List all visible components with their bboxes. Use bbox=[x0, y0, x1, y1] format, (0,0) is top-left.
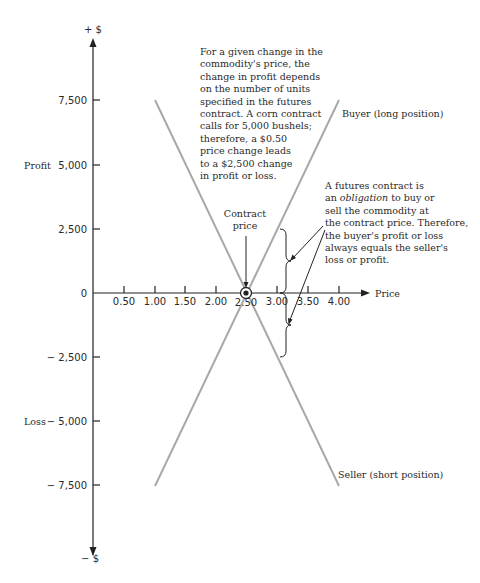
x-tick-1-00: 1.00 bbox=[144, 296, 166, 307]
x-tick-0-50: 0.50 bbox=[113, 296, 135, 307]
y-tick-5000: 5,000 bbox=[58, 160, 87, 171]
y-axis-bottom-label: − $ bbox=[81, 553, 99, 564]
contract-price-label-line2: price bbox=[233, 220, 258, 231]
x-tick-1-50: 1.50 bbox=[174, 296, 196, 307]
note-obligation-rest: sell the commodity at the contract price… bbox=[325, 205, 468, 266]
y-axis-up-arrow-icon bbox=[90, 38, 97, 47]
y-tick-neg-2500: − 2,500 bbox=[47, 352, 87, 363]
note-obligation-line1: A futures contract is bbox=[325, 180, 424, 191]
y-tick-labels: 7,500 5,000 2,500 0 − 2,500 − 5,000 − 7,… bbox=[47, 95, 87, 491]
x-tick-3-50: 3.50 bbox=[297, 296, 319, 307]
x-tick-2-50: 2.50 bbox=[235, 297, 257, 308]
profit-label: Profit bbox=[24, 160, 51, 171]
x-axis-arrow-icon bbox=[361, 290, 370, 297]
y-tick-2500: 2,500 bbox=[58, 224, 87, 235]
y-tick-neg-5000: − 5,000 bbox=[47, 416, 87, 427]
x-tick-4-00: 4.00 bbox=[328, 296, 350, 307]
contract-price-dot bbox=[243, 290, 248, 295]
seller-label: Seller (short position) bbox=[338, 469, 443, 480]
upper-brace bbox=[280, 229, 291, 293]
note-obligation-line2-pre: an bbox=[325, 192, 340, 203]
x-tick-labels: 0.50 1.00 1.50 2.00 2.50 3.00 3.50 4.00 bbox=[113, 296, 350, 308]
y-axis-top-label: + $ bbox=[84, 24, 102, 35]
note-obligation-explanation: A futures contract is an obligation to b… bbox=[325, 180, 468, 267]
note-units-explanation: For a given change in the commodity's pr… bbox=[200, 46, 323, 182]
note-obligation-emphasis: obligation bbox=[340, 192, 388, 203]
y-tick-7500: 7,500 bbox=[58, 95, 87, 106]
buyer-label: Buyer (long position) bbox=[342, 108, 443, 119]
x-axis-title: Price bbox=[375, 288, 400, 299]
y-tick-neg-7500: − 7,500 bbox=[47, 480, 87, 491]
x-tick-3-00: 3.00 bbox=[266, 296, 288, 307]
loss-label: Loss bbox=[24, 416, 46, 427]
x-tick-2-00: 2.00 bbox=[205, 296, 227, 307]
note-pointer-upper bbox=[293, 226, 323, 258]
note-pointer-lower-arrow-icon bbox=[288, 318, 293, 325]
x-ticks bbox=[124, 286, 339, 293]
y-tick-0: 0 bbox=[81, 288, 87, 299]
contract-price-label-line1: Contract bbox=[224, 208, 266, 219]
note-obligation-line2-post: to buy or bbox=[388, 192, 434, 203]
